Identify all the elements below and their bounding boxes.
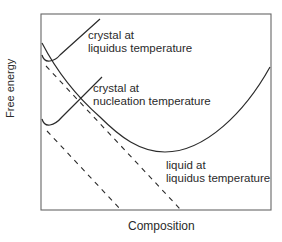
label-crystal-liquidus: crystal at liquidus temperature <box>88 29 192 55</box>
label-liquid-liquidus: liquid at liquidus temperature <box>166 159 270 185</box>
tangent-line-nucleation <box>47 131 121 210</box>
y-axis-label: Free energy <box>4 59 16 118</box>
label-crystal-liquidus-line1: crystal at <box>88 29 192 42</box>
x-axis-label: Composition <box>128 219 195 233</box>
label-crystal-liquidus-line2: liquidus temperature <box>88 42 192 55</box>
label-liquid-line2: liquidus temperature <box>166 172 270 185</box>
label-crystal-nucleation-line2: nucleation temperature <box>93 95 211 108</box>
label-crystal-nucleation-line1: crystal at <box>93 82 211 95</box>
label-liquid-line1: liquid at <box>166 159 270 172</box>
label-crystal-nucleation: crystal at nucleation temperature <box>93 82 211 108</box>
